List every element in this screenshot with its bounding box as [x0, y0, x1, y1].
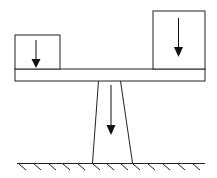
seesaw-diagram	[0, 0, 217, 178]
ground-hatching	[19, 164, 200, 170]
ground	[17, 164, 205, 171]
pillar-support	[93, 81, 133, 163]
beam	[15, 69, 205, 81]
pillar-weight-arrow-icon	[107, 85, 116, 135]
